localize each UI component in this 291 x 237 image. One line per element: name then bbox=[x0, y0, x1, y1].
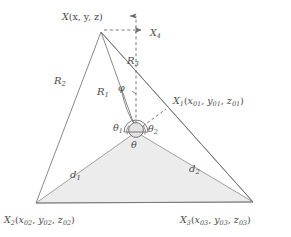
point-x1-base: X bbox=[173, 95, 180, 106]
point-x-base: X bbox=[62, 11, 69, 22]
range-line-r1 bbox=[101, 32, 135, 127]
diagram-canvas bbox=[0, 0, 291, 237]
point-x-coords: (x, y, z) bbox=[69, 11, 103, 22]
range-label-r3: R3 bbox=[127, 56, 139, 66]
point-label-x1: X1(x01, y01, z01) bbox=[173, 96, 244, 106]
axis-label-x4: X4 bbox=[150, 28, 161, 38]
axis-sub: 4 bbox=[157, 32, 161, 40]
point-x2-base: X bbox=[4, 214, 11, 225]
point-x3-base: X bbox=[180, 214, 187, 225]
point-label-x3: X3(x03, y03, z03) bbox=[180, 215, 251, 225]
geometry-diagram: X(x, y, z) X4 X1(x01, y01, z01) X2(x02, … bbox=[0, 0, 291, 237]
baseline-label-d1: d1 bbox=[70, 170, 81, 180]
node-x1-marker bbox=[129, 123, 144, 138]
shaded-base-triangle bbox=[36, 132, 253, 203]
axis-base: X bbox=[150, 27, 157, 38]
baseline-label-d2: d2 bbox=[189, 164, 200, 174]
point-label-x2: X2(x02, y02, z02) bbox=[4, 215, 75, 225]
point-label-x-top: X(x, y, z) bbox=[62, 12, 103, 22]
angle-label-theta: θ bbox=[131, 140, 137, 150]
range-label-r2: R2 bbox=[54, 76, 66, 86]
angle-label-theta1: θ1 bbox=[113, 123, 123, 133]
range-label-r1: R1 bbox=[97, 87, 109, 97]
angle-label-theta2: θ2 bbox=[148, 124, 158, 134]
angle-label-phi: φ bbox=[118, 83, 125, 93]
angle-arc-phi bbox=[132, 91, 136, 94]
